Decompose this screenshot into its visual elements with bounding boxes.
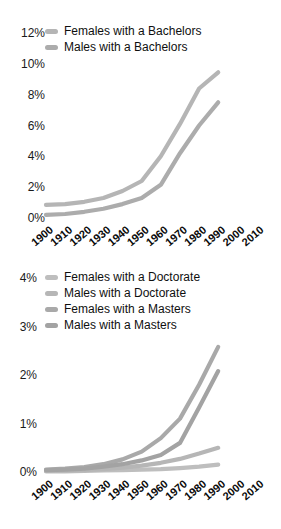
legend-item-females-with-a-doctorate: Females with a Doctorate: [45, 269, 200, 285]
legend-item-males-with-a-doctorate: Males with a Doctorate: [45, 285, 200, 301]
y-tick-label: 6%: [28, 119, 46, 133]
chart-group-0: 0%2%4%6%8%10%12%190019101920193019401950…: [21, 26, 266, 248]
legend-label: Males with a Bachelors: [64, 41, 187, 53]
legend-label: Females with a Doctorate: [64, 271, 200, 283]
y-tick-label: 10%: [21, 57, 45, 71]
legend-swatch-icon: [45, 291, 58, 296]
legend-item-females-with-a-bachelors: Females with a Bachelors: [45, 23, 201, 39]
y-tick-label: 4%: [28, 149, 46, 163]
graduate-chart-legend: Females with a DoctorateMales with a Doc…: [45, 269, 200, 333]
legend-swatch-icon: [45, 275, 58, 280]
legend-label: Males with a Doctorate: [64, 287, 186, 299]
legend-item-males-with-a-bachelors: Males with a Bachelors: [45, 39, 201, 55]
y-tick-label: 8%: [28, 88, 46, 102]
series-line-males-with-a-bachelors: [46, 102, 218, 215]
y-tick-label: 3%: [20, 320, 38, 334]
legend-label: Males with a Masters: [64, 319, 177, 331]
y-tick-label: 0%: [28, 211, 46, 225]
x-tick-label: 2010: [239, 477, 265, 502]
bachelors-chart-legend: Females with a BachelorsMales with a Bac…: [45, 23, 201, 55]
legend-swatch-icon: [45, 307, 58, 312]
legend-item-females-with-a-masters: Females with a Masters: [45, 301, 200, 317]
legend-swatch-icon: [45, 323, 58, 328]
y-tick-label: 12%: [21, 26, 45, 40]
degree-percentage-charts: 0%2%4%6%8%10%12%190019101920193019401950…: [0, 0, 281, 529]
y-tick-label: 1%: [20, 417, 38, 431]
x-tick-label: 2010: [239, 223, 265, 248]
legend-swatch-icon: [45, 45, 58, 50]
series-line-females-with-a-masters: [46, 347, 218, 470]
legend-item-males-with-a-masters: Males with a Masters: [45, 317, 200, 333]
y-tick-label: 4%: [20, 271, 38, 285]
y-tick-label: 2%: [20, 368, 38, 382]
line-charts-plot-area: 0%2%4%6%8%10%12%190019101920193019401950…: [0, 0, 281, 529]
y-tick-label: 0%: [20, 465, 38, 479]
y-tick-label: 2%: [28, 180, 46, 194]
legend-label: Females with a Masters: [64, 303, 191, 315]
legend-swatch-icon: [45, 29, 58, 34]
legend-label: Females with a Bachelors: [64, 25, 201, 37]
